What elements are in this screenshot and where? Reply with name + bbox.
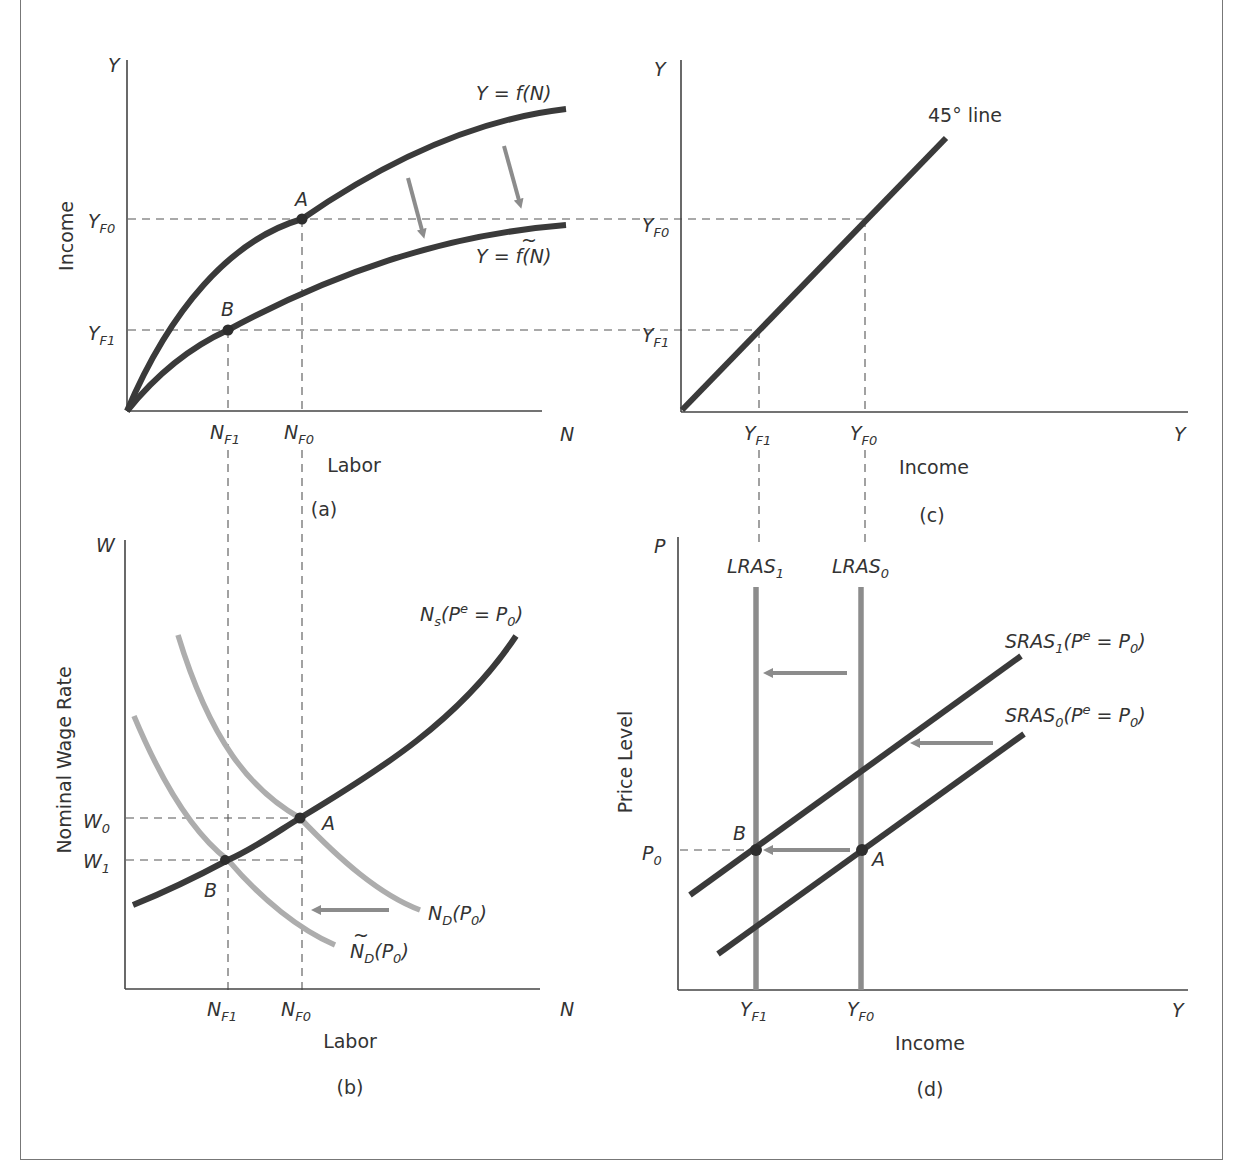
- panel-b: W N Nominal Wage Rate Labor (b) W0 W1 NF…: [53, 534, 574, 1098]
- panel-caption: (c): [919, 504, 944, 526]
- labor-demand-label: ND(P0): [428, 902, 487, 928]
- curve-label-lower: Y = f(N): [476, 245, 551, 267]
- tick-p0: P0: [642, 842, 662, 868]
- tick-nf0: NF0: [284, 421, 314, 447]
- x-axis-title: Income: [895, 1032, 965, 1054]
- y-axis-title: Price Level: [614, 711, 636, 814]
- labor-demand-curve-shifted: [134, 716, 335, 945]
- y-axis-title: Nominal Wage Rate: [53, 666, 75, 853]
- panel-c: Y Y Income (c) YF0 YF1 YF1 YF0 45° line: [642, 58, 1188, 526]
- point-a-marker: [297, 214, 308, 225]
- tick-nf1: NF1: [210, 421, 240, 447]
- y-axis-title: Income: [55, 201, 77, 271]
- x-axis-title: Income: [899, 456, 969, 478]
- point-b-label: B: [221, 298, 234, 320]
- x-axis-symbol: N: [560, 998, 574, 1020]
- y-axis-symbol: W: [96, 534, 116, 556]
- tick-yf1: YF1: [88, 322, 115, 348]
- y-axis-symbol: Y: [654, 58, 667, 80]
- tick-xf1: YF1: [744, 422, 771, 448]
- point-b-label: B: [204, 879, 217, 901]
- tick-yf0: YF0: [88, 210, 115, 236]
- tick-w1: W1: [83, 850, 110, 876]
- point-a-marker: [295, 813, 306, 824]
- panel-caption: (b): [337, 1076, 364, 1098]
- sras0-label: SRAS0(Pe = P0): [1005, 702, 1146, 730]
- point-a-label: A: [320, 812, 335, 834]
- point-b-marker: [223, 325, 234, 336]
- point-a-marker: [856, 844, 868, 856]
- tick-yf0: YF0: [847, 998, 874, 1024]
- tilde-mark: ~: [353, 924, 369, 946]
- tick-yf1: YF1: [740, 998, 767, 1024]
- tick-w0: W0: [83, 810, 110, 836]
- x-axis-title: Labor: [323, 1030, 377, 1052]
- panel-a: Y N Income Labor (a) YF0 YF1 NF1 NF0 Y =…: [55, 54, 574, 520]
- x-axis-symbol: Y: [1172, 999, 1185, 1021]
- x-axis-symbol: Y: [1174, 423, 1187, 445]
- x-axis-title: Labor: [327, 454, 381, 476]
- shift-down-arrow-2: [504, 146, 520, 204]
- lras0-label: LRAS0: [832, 555, 889, 581]
- y-axis-symbol: Y: [108, 54, 121, 76]
- shift-down-arrow-1: [408, 178, 423, 234]
- forty-five-degree-line: [682, 138, 946, 410]
- panel-d: P Y Price Level Income (d) P0 YF1 YF0 LR…: [614, 535, 1188, 1100]
- lras1-label: LRAS1: [727, 555, 784, 581]
- figure-canvas: Y N Income Labor (a) YF0 YF1 NF1 NF0 Y =…: [0, 0, 1238, 1169]
- point-b-marker: [220, 855, 230, 865]
- tick-yf1: YF1: [642, 324, 669, 350]
- point-a-label: A: [870, 848, 885, 870]
- labor-supply-label: Ns(Pe = P0): [420, 601, 523, 629]
- point-a-label: A: [293, 188, 308, 210]
- curve-label-upper: Y = f(N): [476, 82, 551, 104]
- tick-yf0: YF0: [642, 214, 669, 240]
- panel-caption: (a): [311, 498, 337, 520]
- tick-nf1: NF1: [207, 998, 237, 1024]
- x-axis-symbol: N: [560, 423, 574, 445]
- point-b-marker: [750, 844, 762, 856]
- point-b-label: B: [733, 822, 746, 844]
- sras1-label: SRAS1(Pe = P0): [1005, 628, 1146, 656]
- panel-caption: (d): [917, 1078, 944, 1100]
- tilde-mark: ~: [521, 229, 537, 251]
- tick-nf0: NF0: [281, 998, 311, 1024]
- y-axis-symbol: P: [654, 535, 666, 557]
- tick-xf0: YF0: [850, 422, 877, 448]
- line-label: 45° line: [928, 104, 1002, 126]
